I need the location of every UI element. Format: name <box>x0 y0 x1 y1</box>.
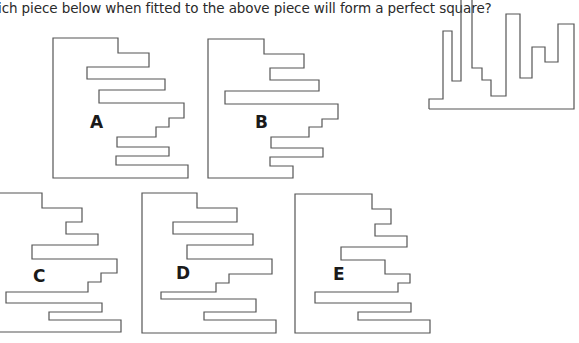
option-b[interactable]: B <box>208 39 338 178</box>
option-d[interactable]: D <box>142 193 276 333</box>
option-c-shape[interactable] <box>0 193 121 332</box>
option-e[interactable]: E <box>295 194 430 333</box>
option-a[interactable]: A <box>53 38 188 178</box>
puzzle-canvas: A B C D E <box>0 0 579 343</box>
option-e-label: E <box>333 264 345 284</box>
option-b-shape[interactable] <box>208 39 338 178</box>
option-c-label: C <box>33 266 45 286</box>
option-d-label: D <box>176 263 190 283</box>
option-a-label: A <box>90 112 104 132</box>
option-c[interactable]: C <box>0 193 121 332</box>
option-d-shape[interactable] <box>142 193 276 333</box>
target-piece <box>429 0 461 109</box>
target-piece-right <box>429 0 574 109</box>
option-e-shape[interactable] <box>295 194 430 333</box>
option-b-label: B <box>255 112 268 132</box>
option-a-shape[interactable] <box>53 38 188 178</box>
